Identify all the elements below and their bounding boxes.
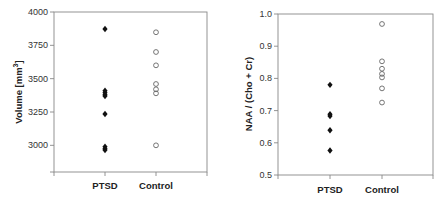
control-data-point bbox=[154, 50, 159, 55]
control-data-point bbox=[380, 22, 385, 27]
y-axis-title: Volume [mm3] bbox=[12, 60, 24, 123]
y-tick-label: 0.9 bbox=[259, 41, 272, 51]
plot-frame bbox=[278, 14, 433, 175]
naa-ratio-chart: 0.50.60.70.80.91.0 NAA / (Cho + Cr) PTSD… bbox=[243, 9, 433, 195]
x-category-control: Control bbox=[365, 184, 399, 195]
data-points bbox=[327, 22, 384, 154]
y-tick-label: 4000 bbox=[28, 7, 48, 17]
control-data-point bbox=[380, 86, 385, 91]
y-tick-label: 1.0 bbox=[259, 9, 272, 19]
plot-frame bbox=[54, 12, 207, 172]
x-axis-ticks bbox=[54, 172, 207, 176]
y-tick-label: 3250 bbox=[28, 107, 48, 117]
y-axis-ticks: 30003250350037504000 bbox=[28, 7, 54, 172]
y-tick-label: 0.5 bbox=[259, 170, 272, 180]
y-axis-ticks: 0.50.60.70.80.91.0 bbox=[259, 9, 278, 180]
ptsd-data-point bbox=[102, 26, 107, 32]
x-category-ptsd: PTSD bbox=[92, 180, 117, 191]
y-tick-label: 3750 bbox=[28, 40, 48, 50]
data-points bbox=[102, 26, 158, 153]
control-data-point bbox=[154, 143, 159, 148]
y-tick-label: 3500 bbox=[28, 74, 48, 84]
control-data-point bbox=[154, 82, 159, 87]
control-data-point bbox=[380, 66, 385, 71]
figure: 30003250350037504000 Volume [mm3] PTSD C… bbox=[0, 0, 445, 205]
x-category-control: Control bbox=[139, 180, 173, 191]
control-data-point bbox=[154, 63, 159, 68]
control-data-point bbox=[380, 75, 385, 80]
ptsd-data-point bbox=[102, 111, 107, 117]
y-tick-label: 0.7 bbox=[259, 106, 272, 116]
ptsd-data-point bbox=[327, 127, 332, 133]
control-data-point bbox=[380, 100, 385, 105]
y-tick-label: 0.8 bbox=[259, 73, 272, 83]
control-data-point bbox=[380, 59, 385, 64]
x-category-ptsd: PTSD bbox=[317, 184, 342, 195]
ptsd-data-point bbox=[327, 82, 332, 88]
ptsd-data-point bbox=[327, 147, 332, 153]
control-data-point bbox=[154, 30, 159, 35]
x-axis-ticks bbox=[278, 175, 433, 179]
y-tick-label: 3000 bbox=[28, 140, 48, 150]
volume-chart: 30003250350037504000 Volume [mm3] PTSD C… bbox=[12, 7, 207, 191]
y-tick-label: 0.6 bbox=[259, 138, 272, 148]
y-axis-title: NAA / (Cho + Cr) bbox=[243, 57, 254, 131]
